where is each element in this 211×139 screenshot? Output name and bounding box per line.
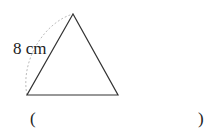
answer-blank[interactable] [42, 110, 192, 128]
side-length-label: 8 cm [13, 40, 47, 57]
answer-open-paren: ( [30, 110, 36, 127]
answer-close-paren: ) [198, 110, 204, 127]
